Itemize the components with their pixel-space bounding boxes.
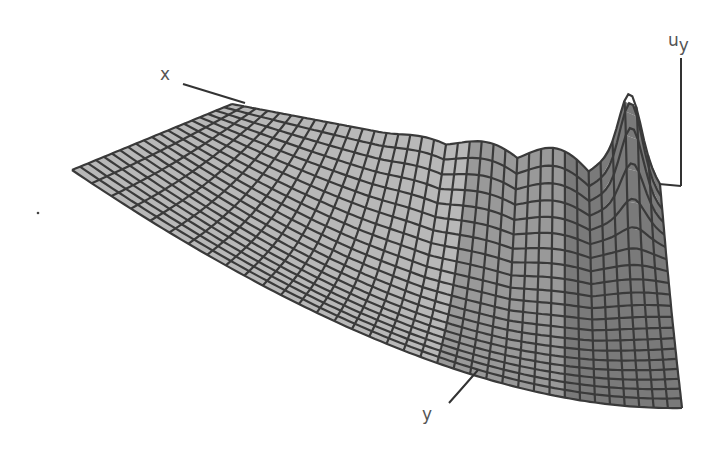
z-axis-foot	[659, 184, 681, 186]
surface-plot: x y uy	[0, 0, 728, 456]
z-axis-label-base: u	[668, 30, 679, 50]
stray-dot	[37, 212, 40, 215]
y-axis-label: y	[422, 404, 432, 424]
surface-mesh	[0, 0, 728, 456]
y-axis-line	[449, 370, 478, 403]
z-axis-label-sub: y	[679, 35, 689, 55]
x-axis-label: x	[160, 64, 170, 84]
x-axis-line	[183, 84, 245, 103]
z-axis-label: uy	[668, 30, 689, 50]
